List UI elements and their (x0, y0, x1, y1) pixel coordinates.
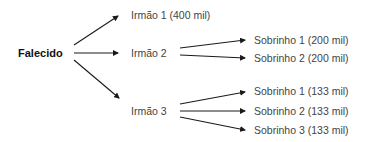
arrow-irmao2-to-sobrinho2 (180, 55, 245, 58)
arrow-root-to-irmao1 (74, 16, 118, 45)
node-irmao2-sobrinho-2: Sobrinho 2 (200 mil) (254, 52, 349, 64)
root-node-falecido: Falecido (18, 47, 63, 59)
node-irmao-2: Irmão 2 (131, 47, 167, 59)
arrow-irmao3-to-sobrinho3 (180, 117, 245, 130)
node-irmao-3: Irmão 3 (131, 105, 167, 117)
node-irmao2-sobrinho-1: Sobrinho 1 (200 mil) (254, 34, 349, 46)
node-irmao3-sobrinho-1: Sobrinho 1 (133 mil) (254, 85, 349, 97)
node-irmao-1: Irmão 1 (400 mil) (131, 9, 210, 21)
arrow-root-to-irmao3 (74, 60, 119, 98)
arrows-layer (0, 0, 374, 142)
node-irmao3-sobrinho-3: Sobrinho 3 (133 mil) (254, 124, 349, 136)
node-irmao3-sobrinho-2: Sobrinho 2 (133 mil) (254, 105, 349, 117)
arrow-irmao3-to-sobrinho1 (180, 92, 245, 104)
arrow-irmao2-to-sobrinho1 (180, 40, 245, 48)
